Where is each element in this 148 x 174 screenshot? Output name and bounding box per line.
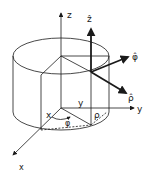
rho-hat-vector <box>91 72 126 93</box>
phi-hat-label: φ̂ <box>132 52 138 62</box>
z-hat-label: ẑ <box>87 14 92 24</box>
cylindrical-coordinates-diagram: z y x ẑ φ̂ ρ̂ y x ρ φ <box>0 0 148 174</box>
unit-vectors <box>91 29 128 93</box>
z-axis-label: z <box>67 10 72 20</box>
phi-label: φ <box>65 119 70 128</box>
y-component-label: y <box>78 98 84 108</box>
x-component-label: x <box>46 110 52 120</box>
y-axis-label: y <box>137 104 143 114</box>
rho-hat-label: ρ̂ <box>128 93 134 103</box>
x-axis-label: x <box>19 163 24 172</box>
x-axis <box>13 108 61 155</box>
coordinate-axes <box>13 13 134 155</box>
rho-label: ρ <box>94 110 100 120</box>
phi-hat-vector <box>91 57 128 72</box>
